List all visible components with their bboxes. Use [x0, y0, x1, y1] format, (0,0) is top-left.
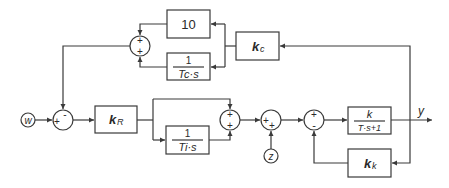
kr-label: k [109, 112, 117, 127]
sum-junction-top: + + [130, 35, 150, 57]
block-plant: k T·s+1 [348, 107, 391, 134]
svg-text:+: + [269, 120, 275, 131]
sum-junction-inner-loop: + - [304, 109, 324, 131]
svg-text:+: + [227, 120, 233, 131]
block-kr: k R [95, 106, 137, 133]
svg-text:-: - [312, 119, 316, 131]
svg-text:+: + [137, 35, 143, 46]
svg-text:+: + [227, 109, 233, 120]
kk-label: k [364, 156, 372, 171]
tc-numerator: 1 [186, 55, 192, 66]
sum-junction-disturbance: + + [261, 110, 281, 131]
sum-junction-pi: + + [220, 109, 240, 131]
block-diagram: 10 1 Tc·s k c k R 1 Ti·s k T·s+1 k k + + [0, 0, 449, 188]
plant-denominator: T·s+1 [358, 123, 381, 133]
kc-subscript: c [260, 44, 265, 54]
svg-text:-: - [63, 109, 66, 120]
plant-numerator: k [367, 108, 373, 120]
setpoint-label: w [24, 115, 32, 126]
svg-text:+: + [54, 116, 60, 127]
disturbance-label: z [268, 151, 274, 162]
block-ti-integrator: 1 Ti·s [166, 126, 209, 154]
kc-label: k [252, 39, 260, 54]
output-y-label: y [417, 104, 425, 118]
tc-denominator: Tc·s [178, 68, 199, 80]
svg-text:+: + [137, 46, 143, 57]
kk-subscript: k [372, 161, 377, 171]
input-z: z [264, 149, 278, 163]
block-gain-10: 10 [167, 10, 210, 38]
kr-subscript: R [117, 117, 124, 127]
gain-10-label: 10 [181, 17, 195, 32]
block-tc-integrator: 1 Tc·s [167, 53, 210, 80]
sum-junction-input: + - [53, 109, 73, 130]
block-kc: k c [236, 32, 279, 60]
input-w: w [21, 113, 35, 127]
ti-numerator: 1 [185, 128, 191, 139]
block-kk: k k [348, 149, 391, 177]
ti-denominator: Ti·s [178, 141, 197, 153]
